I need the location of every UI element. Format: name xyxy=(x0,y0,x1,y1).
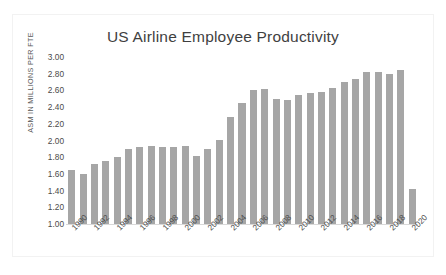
y-axis-tick-label: 1.80 xyxy=(48,152,64,162)
y-axis-tick-label: 2.20 xyxy=(48,119,64,129)
bar xyxy=(409,189,416,224)
bar xyxy=(261,89,268,224)
bar xyxy=(363,72,370,224)
bar xyxy=(352,79,359,224)
bar xyxy=(329,88,336,224)
y-axis-tick-label: 1.40 xyxy=(48,186,64,196)
bar xyxy=(216,140,223,224)
y-axis-tick-label: 3.00 xyxy=(48,52,64,62)
bar xyxy=(238,103,245,224)
bar xyxy=(273,99,280,224)
y-axis-tick-labels: 3.002.802.602.402.202.001.801.601.401.20… xyxy=(30,50,64,232)
bar xyxy=(386,74,393,224)
bar xyxy=(375,72,382,224)
bar xyxy=(182,146,189,224)
x-axis-tick-labels: 1990199219941996199820002002200420062008… xyxy=(66,226,418,272)
bar xyxy=(295,95,302,224)
bar xyxy=(227,117,234,224)
bar xyxy=(136,147,143,224)
bar xyxy=(114,157,121,224)
bar xyxy=(91,164,98,224)
y-axis-tick-label: 1.00 xyxy=(48,219,64,229)
bar xyxy=(284,100,291,224)
y-axis-tick-label: 2.00 xyxy=(48,136,64,146)
bar xyxy=(68,170,75,224)
y-axis-tick-label: 2.60 xyxy=(48,85,64,95)
bar xyxy=(159,147,166,224)
chart-title: US Airline Employee Productivity xyxy=(0,28,446,46)
bar xyxy=(148,146,155,224)
y-axis-tick-label: 1.60 xyxy=(48,169,64,179)
plot-area xyxy=(66,57,418,224)
y-axis-tick-label: 2.40 xyxy=(48,102,64,112)
chart-card: US Airline Employee Productivity ASM IN … xyxy=(0,0,446,275)
bar xyxy=(250,90,257,224)
bar xyxy=(341,82,348,224)
bar xyxy=(204,149,211,224)
bar xyxy=(397,70,404,224)
bar xyxy=(318,92,325,224)
y-axis-tick-label: 1.20 xyxy=(48,202,64,212)
y-axis-tick-label: 2.80 xyxy=(48,69,64,79)
bar xyxy=(307,93,314,224)
